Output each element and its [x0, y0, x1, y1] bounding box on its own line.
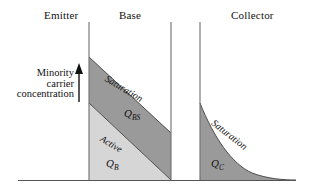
figure-root: Emitter Base Collector Minority carrier … — [0, 0, 313, 194]
charge-label-qbs: QBS — [124, 107, 140, 122]
concentration-arrow-head-icon — [75, 63, 83, 74]
charge-label-qb-symbol: Q — [106, 157, 114, 169]
charge-label-qc: QC — [211, 157, 224, 172]
region-label-emitter: Emitter — [44, 9, 78, 21]
axis-caption-line-1: Minority — [0, 68, 74, 79]
charge-label-qb-subscript: B — [114, 163, 119, 172]
charge-label-qc-symbol: Q — [211, 157, 219, 169]
charge-label-qb: QB — [106, 157, 119, 172]
region-label-collector: Collector — [231, 9, 274, 21]
charge-label-qbs-symbol: Q — [124, 107, 132, 119]
charge-label-qc-subscript: C — [219, 163, 224, 172]
region-label-base: Base — [119, 9, 141, 21]
charge-label-qbs-subscript: BS — [132, 113, 140, 122]
axis-caption-line-3: concentration — [0, 89, 74, 100]
